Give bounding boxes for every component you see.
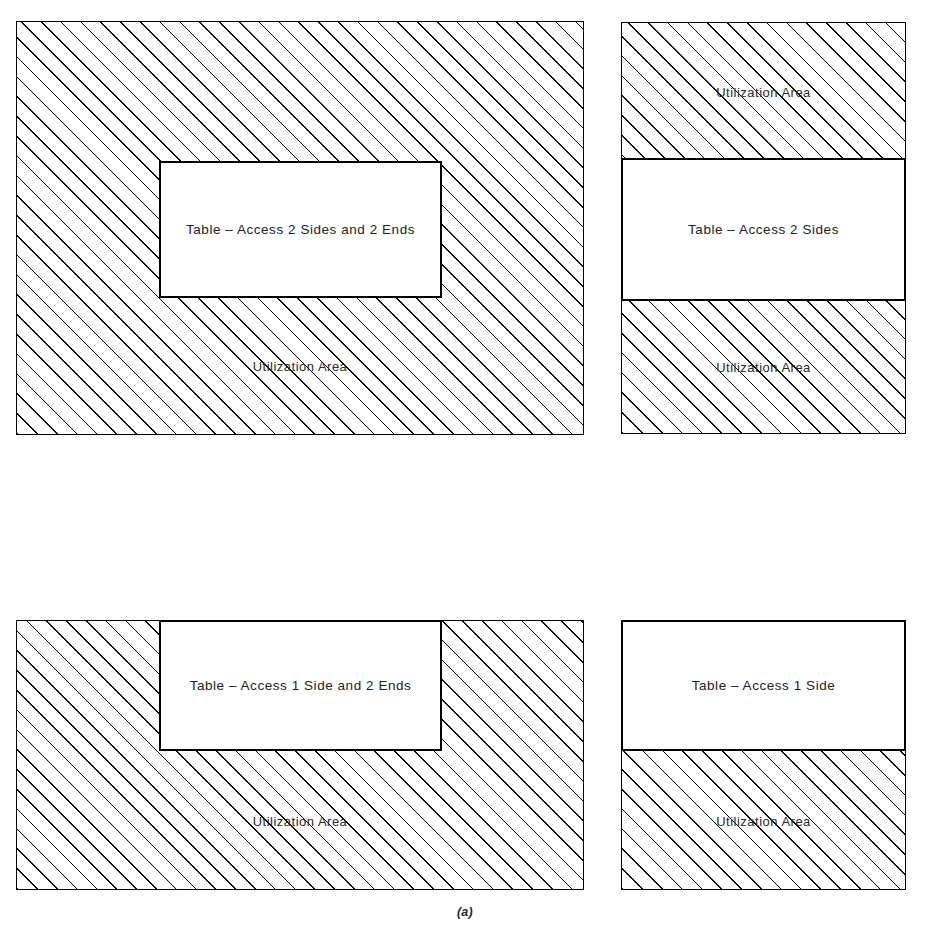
panel-access-2-sides: Utilization Area Table – Access 2 Sides … bbox=[621, 22, 906, 434]
table-label: Table – Access 1 Side and 2 Ends bbox=[190, 678, 412, 693]
panel-access-2-sides-2-ends: Table – Access 2 Sides and 2 Ends Utiliz… bbox=[16, 21, 584, 435]
utilization-area-label: Utilization Area bbox=[716, 814, 811, 829]
table-rectangle: Table – Access 2 Sides and 2 Ends bbox=[159, 161, 442, 298]
utilization-area-label: Utilization Area bbox=[253, 814, 348, 829]
figure-caption: (a) bbox=[0, 905, 930, 919]
table-label: Table – Access 2 Sides bbox=[688, 222, 839, 237]
table-label: Table – Access 2 Sides and 2 Ends bbox=[186, 222, 415, 237]
table-rectangle: Table – Access 1 Side bbox=[621, 620, 906, 751]
utilization-area-label-top: Utilization Area bbox=[716, 85, 811, 100]
utilization-area-label: Utilization Area bbox=[253, 359, 348, 374]
panel-access-1-side-2-ends: Table – Access 1 Side and 2 Ends Utiliza… bbox=[16, 620, 584, 890]
utilization-area-label-bottom: Utilization Area bbox=[716, 360, 811, 375]
table-rectangle: Table – Access 2 Sides bbox=[621, 158, 906, 301]
table-label: Table – Access 1 Side bbox=[692, 678, 836, 693]
table-rectangle: Table – Access 1 Side and 2 Ends bbox=[159, 620, 442, 751]
panel-access-1-side: Table – Access 1 Side Utilization Area bbox=[621, 620, 906, 890]
figure-diagram: Table – Access 2 Sides and 2 Ends Utiliz… bbox=[0, 0, 930, 941]
